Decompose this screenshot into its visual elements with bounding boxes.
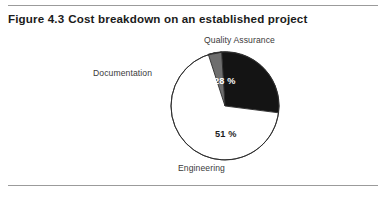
pie-chart: Quality Assurance Documentation Engineer… — [0, 0, 385, 197]
pie-value-engineering: 51 % — [215, 129, 237, 139]
pie-label-documentation: Documentation — [93, 68, 152, 78]
figure-container: Figure 4.3Cost breakdown on an establish… — [0, 0, 385, 197]
pie-value-quality-assurance: 28 % — [214, 76, 236, 86]
pie-label-engineering: Engineering — [178, 163, 225, 173]
pie-value-documentation: 21 % — [181, 97, 203, 107]
pie-label-quality-assurance: Quality Assurance — [204, 35, 275, 45]
bottom-divider-rule — [8, 185, 378, 186]
